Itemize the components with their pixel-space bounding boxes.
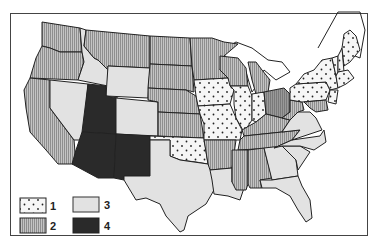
state-arkansas [204, 140, 236, 170]
legend-label-2: 2 [50, 220, 56, 232]
legend-swatch-4 [73, 218, 99, 233]
state-colorado [116, 98, 158, 136]
us-choropleth-map: 1 2 3 4 [0, 0, 382, 244]
state-kansas [158, 112, 204, 138]
legend-swatch-2 [20, 218, 46, 233]
state-pennsylvania [290, 82, 330, 102]
state-wyoming [106, 66, 150, 98]
legend-swatch-1 [20, 198, 46, 213]
state-iowa [194, 78, 234, 106]
state-mississippi [232, 150, 248, 190]
legend-swatch-3 [73, 197, 99, 212]
state-new-mexico [114, 134, 150, 180]
state-north-dakota [150, 36, 192, 66]
legend-label-1: 1 [50, 200, 56, 212]
state-ohio [264, 88, 290, 118]
state-south-dakota [148, 64, 194, 92]
legend-label-4: 4 [104, 220, 111, 232]
legend-label-3: 3 [104, 199, 110, 211]
state-new-jersey [328, 90, 338, 104]
